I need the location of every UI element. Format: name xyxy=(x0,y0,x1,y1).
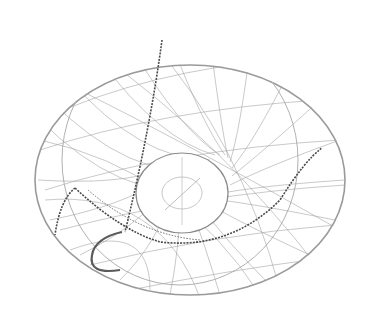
hook-icon xyxy=(92,232,122,271)
crab-net-illustration xyxy=(0,0,368,316)
photo xyxy=(0,0,368,316)
